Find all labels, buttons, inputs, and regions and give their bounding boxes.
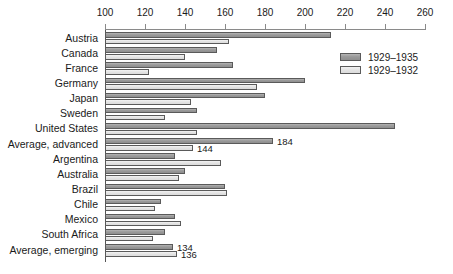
bar-series-b (105, 221, 181, 227)
bar-series-a (105, 32, 331, 38)
legend-swatch-1929-1935 (340, 53, 361, 61)
bar-series-b (105, 206, 155, 212)
bar-series-b (105, 84, 257, 90)
x-axis: 100120140160180200220240260 (0, 0, 453, 30)
bar-series-a (105, 78, 305, 84)
bar-series-a (105, 244, 173, 250)
bar-row: Japan (0, 91, 453, 106)
bar-series-b (105, 160, 221, 166)
x-tick-label: 260 (417, 8, 434, 18)
legend-label-1929-1932: 1929–1932 (368, 65, 418, 76)
bar-series-b (105, 145, 193, 151)
chart-legend: 1929–1935 1929–1932 (340, 52, 450, 78)
category-label: Australia (0, 168, 98, 181)
x-tick-label: 180 (257, 8, 274, 18)
x-tick-label: 140 (177, 8, 194, 18)
bar-series-a (105, 108, 197, 114)
bar-series-a (105, 168, 185, 174)
bar-series-b (105, 190, 227, 196)
legend-item: 1929–1932 (340, 65, 450, 76)
category-label: South Africa (0, 228, 98, 241)
bar-series-b (105, 39, 229, 45)
category-label: Mexico (0, 213, 98, 226)
bar-series-a (105, 184, 225, 190)
bar-value-label: 136 (181, 250, 197, 260)
bar-row: Austria (0, 31, 453, 46)
category-label: Sweden (0, 107, 98, 120)
bar-series-a (105, 62, 233, 68)
bar-row: Sweden (0, 106, 453, 121)
bar-series-b (105, 251, 177, 257)
bar-series-a (105, 153, 175, 159)
bar-series-b (105, 69, 149, 75)
category-label: Germany (0, 77, 98, 90)
bar-row: Chile (0, 197, 453, 212)
bar-series-a (105, 199, 161, 205)
bar-series-b (105, 236, 153, 242)
bar-series-a (105, 138, 273, 144)
category-label: Argentina (0, 153, 98, 166)
category-label: Canada (0, 47, 98, 60)
x-tick-label: 200 (297, 8, 314, 18)
x-tick-label: 220 (337, 8, 354, 18)
bar-series-a (105, 47, 217, 53)
x-tick-label: 100 (97, 8, 114, 18)
bar-value-label: 184 (277, 137, 293, 147)
bar-series-b (105, 175, 179, 181)
bar-row: Average, emerging134136 (0, 243, 453, 258)
bar-row: Brazil (0, 182, 453, 197)
category-label: Chile (0, 198, 98, 211)
bar-row: South Africa (0, 227, 453, 242)
bar-series-b (105, 99, 191, 105)
bar-row: Australia (0, 167, 453, 182)
bar-series-b (105, 54, 185, 60)
x-tick-label: 160 (217, 8, 234, 18)
bar-series-b (105, 130, 197, 136)
category-label: Japan (0, 92, 98, 105)
category-label: Brazil (0, 183, 98, 196)
bar-row: Germany (0, 76, 453, 91)
legend-label-1929-1935: 1929–1935 (368, 52, 418, 63)
bar-row: Argentina (0, 152, 453, 167)
category-label: United States (0, 122, 98, 135)
bar-row: Average, advanced184144 (0, 137, 453, 152)
bar-chart: 100120140160180200220240260 AustriaCanad… (0, 0, 453, 274)
bar-row: United States (0, 121, 453, 136)
x-tick-label: 240 (377, 8, 394, 18)
category-label: Average, emerging (0, 244, 98, 257)
bar-series-b (105, 115, 165, 121)
legend-item: 1929–1935 (340, 52, 450, 63)
category-label: Austria (0, 32, 98, 45)
bar-series-a (105, 214, 175, 220)
category-label: Average, advanced (0, 138, 98, 151)
bar-row: Mexico (0, 212, 453, 227)
bar-series-a (105, 123, 395, 129)
bar-series-a (105, 229, 165, 235)
legend-swatch-1929-1932 (340, 66, 361, 74)
x-tick-label: 120 (137, 8, 154, 18)
bar-series-a (105, 93, 265, 99)
category-label: France (0, 62, 98, 75)
